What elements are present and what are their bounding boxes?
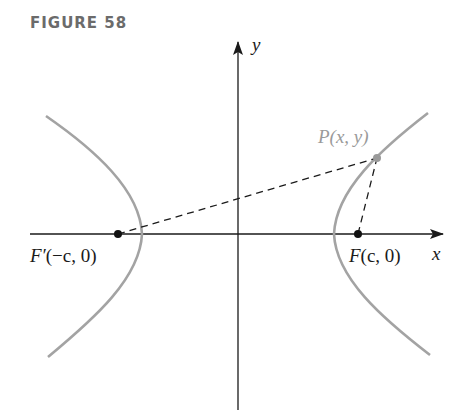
hyperbola-diagram: y x P(x, y) F(c, 0) F′(−c, 0) <box>0 0 466 412</box>
label-point-p: P(x, y) <box>317 126 369 148</box>
hyperbola-left-branch <box>46 116 142 357</box>
x-axis-label: x <box>431 243 441 264</box>
label-focus-f: F(c, 0) <box>348 245 401 267</box>
dashed-line-fprime-to-p <box>118 158 377 234</box>
dashed-line-f-to-p <box>358 158 377 234</box>
label-focus-f-prime: F′(−c, 0) <box>29 245 97 267</box>
focus-f-point <box>354 230 362 238</box>
point-p <box>373 154 381 162</box>
y-axis-label: y <box>250 34 261 55</box>
focus-f-prime-point <box>114 230 122 238</box>
